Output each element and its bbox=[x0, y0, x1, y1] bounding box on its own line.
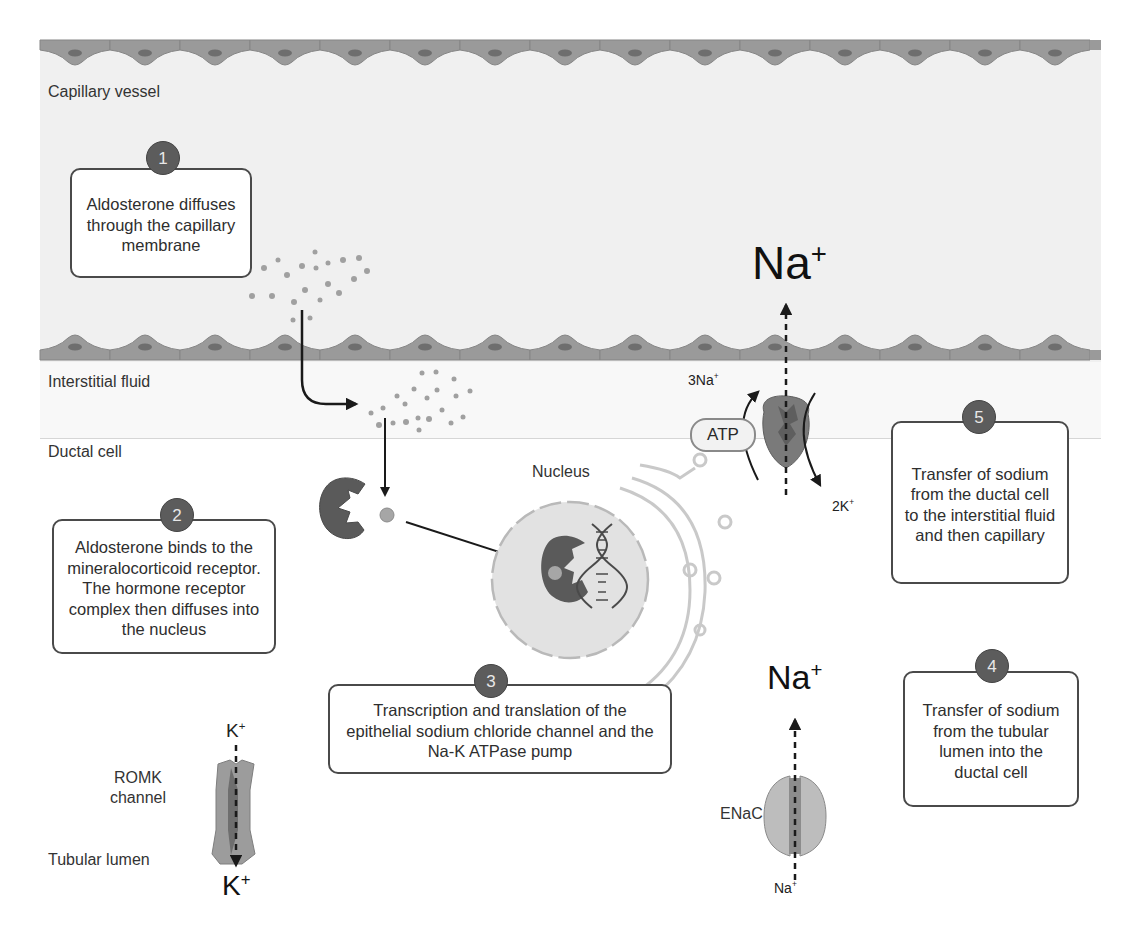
ion-k-lumen: K+ bbox=[222, 872, 251, 900]
step-2-box: Aldosterone binds to the mineralocortico… bbox=[52, 519, 276, 654]
step-3-box: Transcription and translation of the epi… bbox=[328, 684, 672, 774]
step-4-badge: 4 bbox=[975, 649, 1009, 683]
aldosterone-molecule bbox=[380, 508, 394, 522]
capillary-endothelium-top bbox=[40, 40, 1101, 65]
ion-2k-pump: 2K+ bbox=[832, 498, 854, 514]
atp-label: ATP bbox=[690, 418, 756, 452]
label-interstitial-fluid: Interstitial fluid bbox=[48, 373, 150, 391]
ion-na-ductal: Na+ bbox=[767, 660, 822, 694]
capillary-endothelium-bottom bbox=[40, 335, 1101, 360]
step-1-box: Aldosterone diffuses through the capilla… bbox=[70, 168, 252, 278]
enac-channel bbox=[764, 720, 826, 880]
step-2-badge: 2 bbox=[160, 498, 194, 532]
step-1-badge: 1 bbox=[146, 141, 180, 175]
ion-na-lumen: Na+ bbox=[774, 880, 797, 896]
step-1-text: Aldosterone diffuses through the capilla… bbox=[82, 194, 240, 256]
ion-k-ductal: K+ bbox=[226, 720, 245, 742]
step-3-badge: 3 bbox=[474, 664, 508, 698]
step-2-text: Aldosterone binds to the mineralocortico… bbox=[64, 537, 264, 640]
step-3-text: Transcription and translation of the epi… bbox=[340, 700, 660, 762]
nucleus bbox=[492, 502, 648, 658]
aldosterone-molecules-capillary bbox=[249, 250, 370, 323]
ion-na-capillary: Na+ bbox=[752, 240, 827, 286]
label-tubular-lumen: Tubular lumen bbox=[48, 851, 150, 869]
step-5-box: Transfer of sodium from the ductal cell … bbox=[891, 421, 1069, 584]
step-5-badge: 5 bbox=[962, 400, 996, 434]
na-k-atpase-pump bbox=[743, 305, 820, 495]
label-enac: ENaC bbox=[720, 805, 763, 823]
romk-label-line1: ROMK bbox=[103, 768, 173, 788]
romk-label-line2: channel bbox=[103, 788, 173, 808]
label-nucleus: Nucleus bbox=[532, 463, 590, 481]
romk-channel bbox=[212, 745, 255, 865]
step-4-text: Transfer of sodium from the tubular lume… bbox=[915, 700, 1067, 782]
mineralocorticoid-receptor bbox=[320, 478, 365, 539]
label-ductal-cell: Ductal cell bbox=[48, 443, 122, 461]
step-5-text: Transfer of sodium from the ductal cell … bbox=[903, 464, 1057, 546]
ion-3na-pump: 3Na+ bbox=[688, 372, 719, 388]
label-capillary-vessel: Capillary vessel bbox=[48, 83, 160, 101]
step-4-box: Transfer of sodium from the tubular lume… bbox=[903, 671, 1079, 807]
label-romk-channel: ROMK channel bbox=[103, 768, 173, 808]
